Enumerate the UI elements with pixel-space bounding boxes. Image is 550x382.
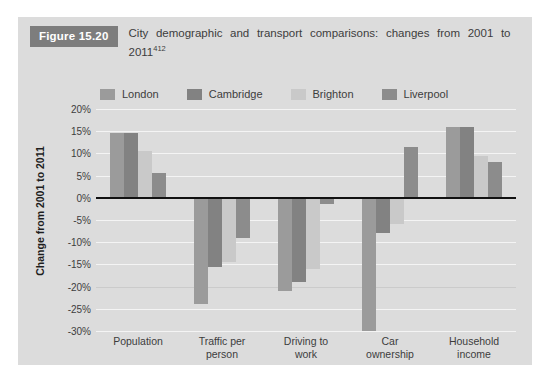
figure-card: Figure 15.20 City demographic and transp… bbox=[18, 17, 532, 365]
legend-label: London bbox=[122, 88, 159, 100]
bar[interactable] bbox=[124, 133, 138, 197]
legend-swatch-icon bbox=[291, 89, 306, 100]
y-axis-tick-label: -20% bbox=[46, 281, 91, 292]
bar[interactable] bbox=[110, 133, 124, 197]
bar[interactable] bbox=[292, 198, 306, 282]
figure-caption-row: Figure 15.20 City demographic and transp… bbox=[30, 26, 524, 60]
x-axis-label: Traffic perperson bbox=[180, 335, 264, 361]
x-axis-label: Driving towork bbox=[264, 335, 348, 361]
bar-group bbox=[264, 109, 348, 331]
bar[interactable] bbox=[194, 198, 208, 305]
x-axis-labels: PopulationTraffic perpersonDriving towor… bbox=[96, 335, 516, 369]
bar-group bbox=[348, 109, 432, 331]
x-axis-label: Householdincome bbox=[432, 335, 516, 361]
x-axis-label: Population bbox=[96, 335, 180, 348]
y-axis-tick-label: -30% bbox=[46, 326, 91, 337]
figure-caption-footnote: 412 bbox=[153, 44, 166, 53]
bar[interactable] bbox=[236, 198, 250, 238]
bar[interactable] bbox=[460, 127, 474, 198]
x-axis-label-line: work bbox=[264, 348, 348, 361]
bar[interactable] bbox=[404, 147, 418, 198]
legend-label: Cambridge bbox=[209, 88, 263, 100]
x-axis-label-line: Driving to bbox=[264, 335, 348, 348]
bar[interactable] bbox=[278, 198, 292, 291]
chart-plot-wrapper: Change from 2001 to 2011 20%15%10%5%0%-5… bbox=[18, 109, 532, 365]
legend-item[interactable]: Brighton bbox=[291, 88, 354, 100]
bar[interactable] bbox=[474, 156, 488, 198]
legend-item[interactable]: London bbox=[100, 88, 159, 100]
bar[interactable] bbox=[306, 198, 320, 269]
figure-caption: City demographic and transport compariso… bbox=[129, 26, 511, 60]
bar[interactable] bbox=[222, 198, 236, 262]
bar-group bbox=[432, 109, 516, 331]
y-axis-tick-label: 10% bbox=[46, 148, 91, 159]
bar[interactable] bbox=[390, 198, 404, 225]
legend-swatch-icon bbox=[382, 89, 397, 100]
bar[interactable] bbox=[376, 198, 390, 234]
x-axis-label-line: person bbox=[180, 348, 264, 361]
bar[interactable] bbox=[488, 162, 502, 198]
legend-item[interactable]: Liverpool bbox=[382, 88, 449, 100]
y-axis-tick-label: -25% bbox=[46, 303, 91, 314]
figure-caption-text: City demographic and transport compariso… bbox=[129, 27, 511, 58]
x-axis-label-line: ownership bbox=[348, 348, 432, 361]
bar[interactable] bbox=[152, 173, 166, 197]
bar[interactable] bbox=[446, 127, 460, 198]
y-axis-tick-label: 5% bbox=[46, 170, 91, 181]
bar[interactable] bbox=[208, 198, 222, 267]
y-axis-tick-label: -10% bbox=[46, 237, 91, 248]
bar-group bbox=[180, 109, 264, 331]
y-axis-tick-label: -15% bbox=[46, 259, 91, 270]
y-axis-tick-label: -5% bbox=[46, 215, 91, 226]
legend-item[interactable]: Cambridge bbox=[187, 88, 263, 100]
bar-group bbox=[96, 109, 180, 331]
y-axis-tick-label: 15% bbox=[46, 126, 91, 137]
x-axis-label-line: income bbox=[432, 348, 516, 361]
gridline bbox=[96, 331, 516, 332]
x-axis-label-line: Traffic per bbox=[180, 335, 264, 348]
figure-number-badge: Figure 15.20 bbox=[30, 26, 118, 47]
x-axis-label-line: Population bbox=[96, 335, 180, 348]
legend-swatch-icon bbox=[100, 89, 115, 100]
legend-swatch-icon bbox=[187, 89, 202, 100]
x-axis-label: Carownership bbox=[348, 335, 432, 361]
legend-label: Liverpool bbox=[404, 88, 449, 100]
x-axis-label-line: Household bbox=[432, 335, 516, 348]
bar[interactable] bbox=[138, 151, 152, 198]
bar[interactable] bbox=[362, 198, 376, 331]
zero-baseline bbox=[96, 197, 516, 199]
y-axis-tick-label: 0% bbox=[46, 192, 91, 203]
y-axis-tick-label: 20% bbox=[46, 104, 91, 115]
chart-plot-area bbox=[96, 109, 516, 331]
legend-label: Brighton bbox=[313, 88, 354, 100]
y-axis-title: Change from 2001 to 2011 bbox=[34, 126, 46, 296]
x-axis-label-line: Car bbox=[348, 335, 432, 348]
y-axis-ticks: 20%15%10%5%0%-5%-10%-15%-20%-25%-30% bbox=[46, 109, 91, 331]
chart-legend: LondonCambridgeBrightonLiverpool bbox=[100, 88, 476, 100]
